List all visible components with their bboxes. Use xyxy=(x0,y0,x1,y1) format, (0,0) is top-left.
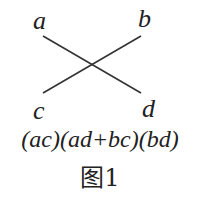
label-c: c xyxy=(33,98,45,124)
figure-caption: 图1 xyxy=(0,166,200,190)
label-a: a xyxy=(33,8,46,34)
label-d: d xyxy=(142,96,155,122)
factor-expression: (ac)(ad+bc)(bd) xyxy=(0,127,200,151)
cross-multiplication-diagram: a b c d (ac)(ad+bc)(bd) 图1 xyxy=(0,0,200,202)
label-b: b xyxy=(138,6,151,32)
